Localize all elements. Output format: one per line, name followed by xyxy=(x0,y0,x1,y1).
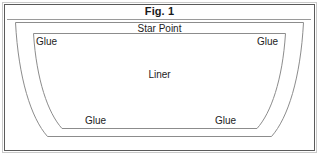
figure-container: Fig. 1 Star Point Liner Glue Glue Glue G… xyxy=(0,0,319,155)
label-liner: Liner xyxy=(0,69,319,80)
label-glue-bottom-left: Glue xyxy=(85,115,106,126)
label-star-point: Star Point xyxy=(0,23,319,34)
label-glue-top-left: Glue xyxy=(36,36,57,47)
inner-liner-outline xyxy=(34,34,286,129)
label-glue-top-right: Glue xyxy=(257,36,278,47)
label-glue-bottom-right: Glue xyxy=(215,115,236,126)
